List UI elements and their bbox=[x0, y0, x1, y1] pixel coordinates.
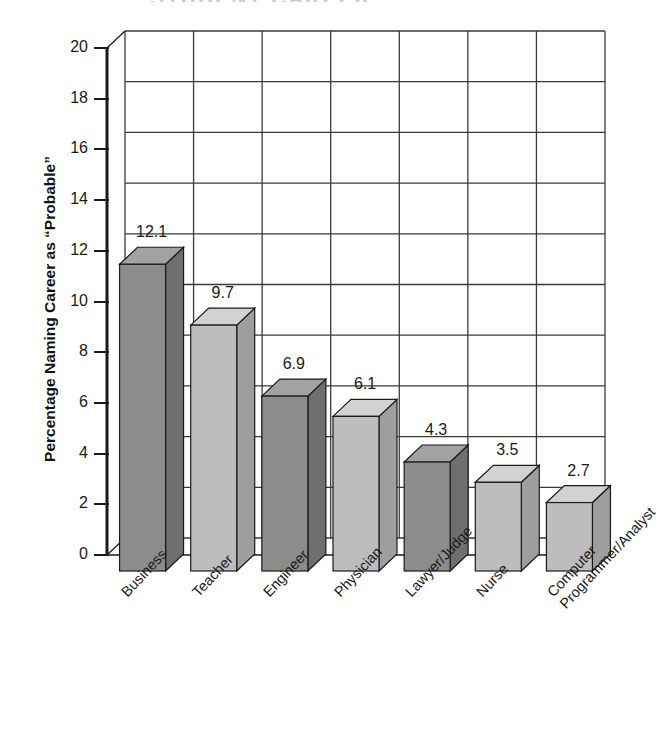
bar-side-face bbox=[379, 399, 397, 571]
bar-value-label: 6.1 bbox=[335, 375, 395, 393]
bar-value-label: 3.5 bbox=[477, 441, 537, 459]
bar-side-face bbox=[308, 379, 326, 571]
bar-1 bbox=[191, 308, 255, 571]
bar-value-label: 12.1 bbox=[122, 223, 182, 241]
bar-value-label: 9.7 bbox=[193, 284, 253, 302]
bar-3 bbox=[333, 399, 397, 571]
bar-value-label: 4.3 bbox=[406, 421, 466, 439]
top-depth-edge bbox=[107, 31, 125, 48]
bar-side-face bbox=[166, 247, 184, 571]
bar-5 bbox=[475, 465, 539, 571]
bar-0 bbox=[120, 247, 184, 571]
bar-front-face bbox=[475, 482, 521, 571]
bar-front-face bbox=[191, 325, 237, 571]
bar-value-label: 2.7 bbox=[548, 462, 608, 480]
bar-front-face bbox=[120, 264, 166, 571]
bar-value-label: 6.9 bbox=[264, 355, 324, 373]
bar-side-face bbox=[237, 308, 255, 571]
bar-front-face bbox=[262, 396, 308, 571]
bar-2 bbox=[262, 379, 326, 571]
bar-side-face bbox=[521, 465, 539, 571]
